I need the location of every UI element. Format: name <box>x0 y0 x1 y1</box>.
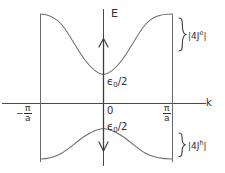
band-structure-figure: E k 0 −πa πa ϵ0/2 ϵ0/2 |4Je| |4Jh| <box>0 0 225 173</box>
valence-bandwidth-label: |4Jh| <box>188 140 207 151</box>
conduction-bandwidth-label: |4Je| <box>188 30 206 41</box>
left-zone-boundary-sign: − <box>16 109 24 118</box>
left-zone-boundary-label: −πa <box>16 104 32 124</box>
energy-axis-label: E <box>111 8 118 19</box>
valence-bandwidth-brace <box>179 133 185 157</box>
valence-bandwidth-suffix: | <box>204 141 207 151</box>
right-zone-boundary-fraction: πa <box>163 104 171 124</box>
left-zone-boundary-denominator: a <box>24 113 32 123</box>
origin-label: 0 <box>107 106 113 116</box>
k-axis-label: k <box>206 98 212 108</box>
valence-bandwidth-prefix: |4J <box>188 141 199 151</box>
right-zone-boundary-label: πa <box>163 104 171 124</box>
conduction-bandwidth-suffix: | <box>203 31 206 41</box>
lower-half-gap-label: ϵ0/2 <box>107 122 127 134</box>
conduction-bandwidth-prefix: |4J <box>188 31 199 41</box>
right-zone-boundary-denominator: a <box>163 113 171 123</box>
left-zone-boundary-numerator: π <box>24 104 32 113</box>
conduction-bandwidth-brace <box>179 18 186 51</box>
right-zone-boundary-numerator: π <box>163 104 171 113</box>
upper-half-gap-label: ϵ0/2 <box>107 77 127 89</box>
left-zone-boundary-fraction: πa <box>24 104 32 124</box>
lower-half-gap-suffix: /2 <box>118 121 128 132</box>
upper-half-gap-suffix: /2 <box>118 76 128 87</box>
